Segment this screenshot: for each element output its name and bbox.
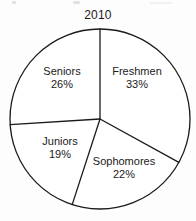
- pie-slice-label-freshmen: Freshmen33%: [112, 65, 162, 91]
- pie-slice-label-seniors: Seniors26%: [43, 65, 80, 91]
- pie-slice-name-seniors: Seniors: [43, 65, 80, 77]
- pie-chart-figure: 2010 Freshmen33%Sophomores22%Juniors19%S…: [0, 0, 196, 221]
- pie-slice-name-sophomores: Sophomores: [93, 155, 155, 167]
- pie-slice-label-juniors: Juniors19%: [42, 135, 77, 161]
- pie-slice-label-sophomores: Sophomores22%: [93, 155, 155, 181]
- pie-slice-name-juniors: Juniors: [42, 135, 77, 147]
- pie-chart-graphic: [0, 0, 196, 221]
- pie-slice-value-juniors: 19%: [42, 148, 77, 161]
- pie-slice-value-seniors: 26%: [43, 78, 80, 91]
- pie-slice-name-freshmen: Freshmen: [112, 65, 162, 77]
- pie-slice-value-sophomores: 22%: [93, 168, 155, 181]
- pie-slice-value-freshmen: 33%: [112, 78, 162, 91]
